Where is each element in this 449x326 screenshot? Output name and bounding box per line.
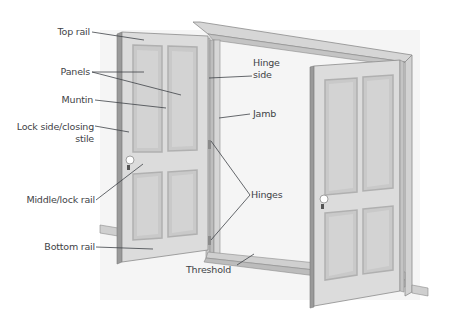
door-diagram: [0, 0, 449, 326]
label-hinge-side-line2: side: [253, 69, 272, 80]
label-hinges: Hinges: [251, 189, 282, 200]
label-muntin: Muntin: [10, 94, 93, 105]
label-bottom-rail: Bottom rail: [0, 241, 95, 252]
label-panels: Panels: [10, 66, 90, 77]
door-knob-icon: [126, 156, 134, 164]
label-lock-stile-line1: Lock side/closing: [0, 121, 94, 132]
door-right: [310, 60, 404, 308]
label-lock-stile-line2: stile: [0, 133, 94, 144]
hinge-top: [208, 140, 211, 149]
label-threshold: Threshold: [186, 264, 231, 275]
label-top-rail: Top rail: [10, 26, 90, 37]
keyhole-icon: [321, 204, 324, 209]
hinge-bottom: [208, 236, 211, 245]
door-open-left: [117, 32, 211, 264]
label-middle-rail: Middle/lock rail: [0, 194, 95, 205]
label-jamb: Jamb: [253, 108, 276, 119]
door-knob-icon: [320, 195, 328, 203]
label-hinge-side-line1: Hinge: [253, 57, 280, 68]
keyhole-icon: [127, 165, 130, 170]
